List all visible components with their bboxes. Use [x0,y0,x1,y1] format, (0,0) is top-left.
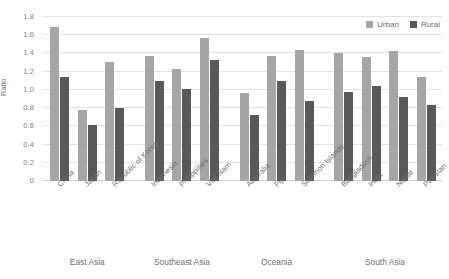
y-axis-tick-label: 0.6 [10,122,34,130]
plot-area [42,17,442,181]
chart-legend: UrbanRural [366,20,440,29]
legend-swatch-icon [410,21,417,28]
x-axis-category-labels: ChinaJapanRepublic of KoreaIndonesiaPhil… [42,183,442,245]
bar-rural [182,89,191,181]
legend-label: Urban [377,20,399,29]
bar-urban [145,56,154,181]
bar-urban [417,77,426,181]
bar-rural [344,92,353,181]
bar-urban [78,110,87,181]
legend-item: Urban [366,20,399,29]
y-axis-tick-label: 1.2 [10,68,34,76]
legend-label: Rural [421,20,440,29]
bars-layer [42,17,442,181]
bar-rural [155,81,164,181]
y-axis-tick-label: 0.4 [10,141,34,149]
bar-rural [277,81,286,181]
bar-rural [372,86,381,181]
bar-urban [50,27,59,181]
bar-urban [334,53,343,181]
y-axis-tick-label: 0 [10,177,34,185]
region-group-label: Oceania [261,257,292,267]
bar-rural [210,60,219,181]
bar-urban [105,62,114,181]
bar-urban [267,56,276,181]
region-group-label: Southeast Asia [154,257,210,267]
y-axis-tick-label: 0.8 [10,104,34,112]
bar-rural [60,77,69,181]
region-group-label: East Asia [70,257,105,267]
y-axis-tick-label: 1.8 [10,13,34,21]
y-axis-tick-label: 0.2 [10,159,34,167]
x-axis-region-labels: East AsiaSoutheast AsiaOceaniaSouth Asia [42,257,442,273]
region-group-label: South Asia [365,257,405,267]
y-axis-title: Ratio [0,78,8,96]
legend-item: Rural [410,20,440,29]
bar-urban [295,50,304,181]
bar-urban [240,93,249,181]
y-axis-tick-label: 1.6 [10,31,34,39]
legend-swatch-icon [366,21,373,28]
y-axis-tick-label: 1.0 [10,86,34,94]
y-axis-tick-label: 1.4 [10,49,34,57]
bar-urban [389,51,398,181]
